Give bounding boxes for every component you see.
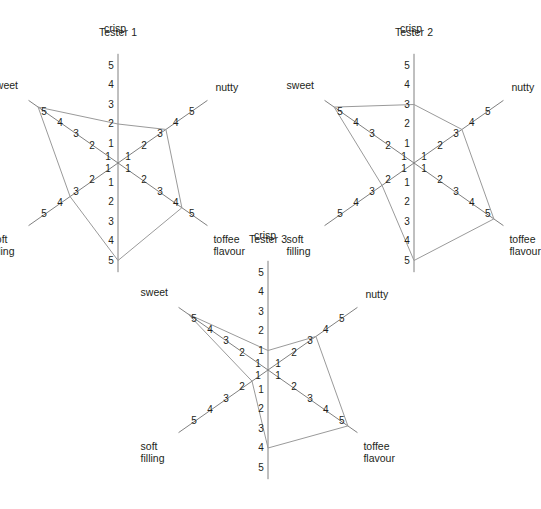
axis-name-label: sweet [141, 287, 168, 299]
axis-tick-label: 3 [255, 306, 267, 318]
axis-name-line: sweet [141, 287, 168, 299]
axis-tick-label: 1 [272, 358, 284, 370]
axis-name-line: nutty [365, 289, 388, 301]
axis-tick-label: 2 [255, 325, 267, 337]
axis-tick-label: 3 [304, 335, 316, 347]
axis-name-line: filling [141, 453, 165, 465]
axis-tick-label: 4 [320, 404, 332, 416]
axis-tick-label: 2 [236, 347, 248, 359]
axis-name-label: nutty [365, 289, 388, 301]
axis-tick-label: 4 [255, 286, 267, 298]
radar-axes-and-polygon [0, 0, 541, 509]
axis-tick-label: 2 [255, 403, 267, 415]
axis-tick-label: 1 [252, 370, 264, 382]
axis-tick-label: 4 [204, 324, 216, 336]
axis-tick-label: 3 [220, 393, 232, 405]
axis-tick-label: 1 [255, 345, 267, 357]
axis-tick-label: 3 [304, 393, 316, 405]
axis-name-line: crisp [254, 230, 276, 242]
axis-tick-label: 2 [236, 381, 248, 393]
axis-tick-label: 4 [320, 324, 332, 336]
axis-tick-label: 1 [272, 370, 284, 382]
axis-tick-label: 5 [188, 415, 200, 427]
axis-tick-label: 5 [188, 313, 200, 325]
axis-tick-label: 4 [255, 442, 267, 454]
axis-name-label: softfilling [141, 441, 165, 464]
axis-tick-label: 5 [336, 313, 348, 325]
axis-tick-label: 3 [255, 423, 267, 435]
axis-name-line: flavour [363, 453, 395, 465]
axis-tick-label: 1 [255, 384, 267, 396]
axis-tick-label: 3 [220, 335, 232, 347]
axis-tick-label: 5 [255, 462, 267, 474]
axis-tick-label: 1 [252, 358, 264, 370]
axis-tick-label: 5 [336, 415, 348, 427]
axis-tick-label: 2 [288, 381, 300, 393]
axis-name-label: toffeeflavour [363, 441, 395, 464]
axis-tick-label: 4 [204, 404, 216, 416]
axis-tick-label: 5 [255, 267, 267, 279]
axis-tick-label: 2 [288, 347, 300, 359]
axis-name-label: crisp [254, 230, 276, 242]
